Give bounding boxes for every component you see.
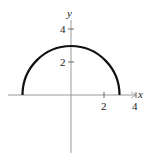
y-tick-label-2: 2: [60, 56, 66, 68]
x-tick-label-2: 2: [101, 100, 107, 112]
x-tick-label-4: 4: [132, 100, 138, 112]
y-axis-label: y: [66, 7, 72, 19]
semicircle-graph: y x 2 4 2 4: [0, 0, 154, 155]
x-axis-label: x: [137, 88, 143, 100]
y-tick-label-4: 4: [60, 23, 66, 35]
